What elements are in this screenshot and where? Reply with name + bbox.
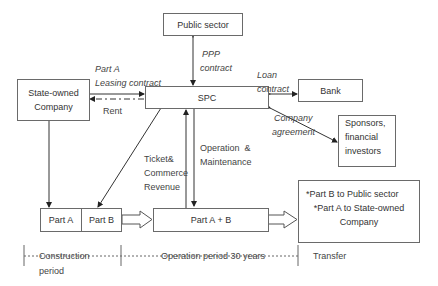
public-sector-box: Public sector: [163, 13, 243, 36]
company-agreement-label-1: Company: [274, 111, 313, 125]
state-owned-line2: Company: [34, 100, 73, 114]
transfer-line3: Company: [340, 215, 379, 229]
bank-label: Bank: [320, 84, 341, 98]
part-b-box: Part B: [81, 208, 122, 232]
construction-period-label-2: period: [39, 264, 64, 278]
public-sector-label: Public sector: [177, 18, 229, 32]
part-a-box: Part A: [40, 208, 82, 232]
ticket-label-2: Commerce: [144, 166, 188, 180]
operation-period-label: Operation period 30 years: [161, 249, 265, 263]
ticket-label-3: Revenue: [144, 180, 180, 194]
block-arrow-2: [268, 211, 297, 228]
loan-label-1: Loan: [257, 68, 277, 82]
ticket-label-1: Ticket&: [144, 152, 174, 166]
part-b-label: Part B: [89, 213, 114, 227]
loan-label-2: contract: [257, 82, 289, 96]
transfer-line1: *Part B to Public sector: [299, 187, 399, 201]
block-arrow-1: [122, 211, 152, 228]
leasing-label-2: Leasing contract: [95, 76, 161, 90]
sponsors-line1: Sponsors,: [345, 116, 386, 130]
leasing-label-1: Part A: [95, 62, 120, 76]
operation-label-1: Operation &: [200, 141, 251, 155]
rent-label: Rent: [103, 104, 122, 118]
transfer-outcome-box: *Part B to Public sector *Part A to Stat…: [298, 180, 420, 243]
company-agreement-label-2: agreement: [272, 125, 315, 139]
state-owned-line1: State-owned: [28, 86, 79, 100]
transfer-line2: *Part A to State-owned: [314, 201, 405, 215]
part-a-label: Part A: [49, 213, 74, 227]
spc-label: SPC: [198, 91, 217, 105]
sponsors-line2: financial: [345, 130, 378, 144]
transfer-label: Transfer: [313, 249, 346, 263]
construction-period-label-1: Construction: [39, 249, 90, 263]
state-owned-company-box: State-owned Company: [17, 79, 90, 121]
bank-box: Bank: [298, 79, 363, 102]
operation-label-2: Maintenance: [200, 155, 252, 169]
ppp-label-1: PPP: [202, 47, 220, 61]
part-ab-label: Part A + B: [191, 213, 231, 227]
ppp-label-2: contract: [200, 61, 232, 75]
sponsors-box: Sponsors, financial investors: [338, 115, 396, 167]
sponsors-line3: investors: [345, 144, 381, 158]
part-ab-box: Part A + B: [153, 208, 269, 232]
spc-box: SPC: [145, 86, 269, 109]
